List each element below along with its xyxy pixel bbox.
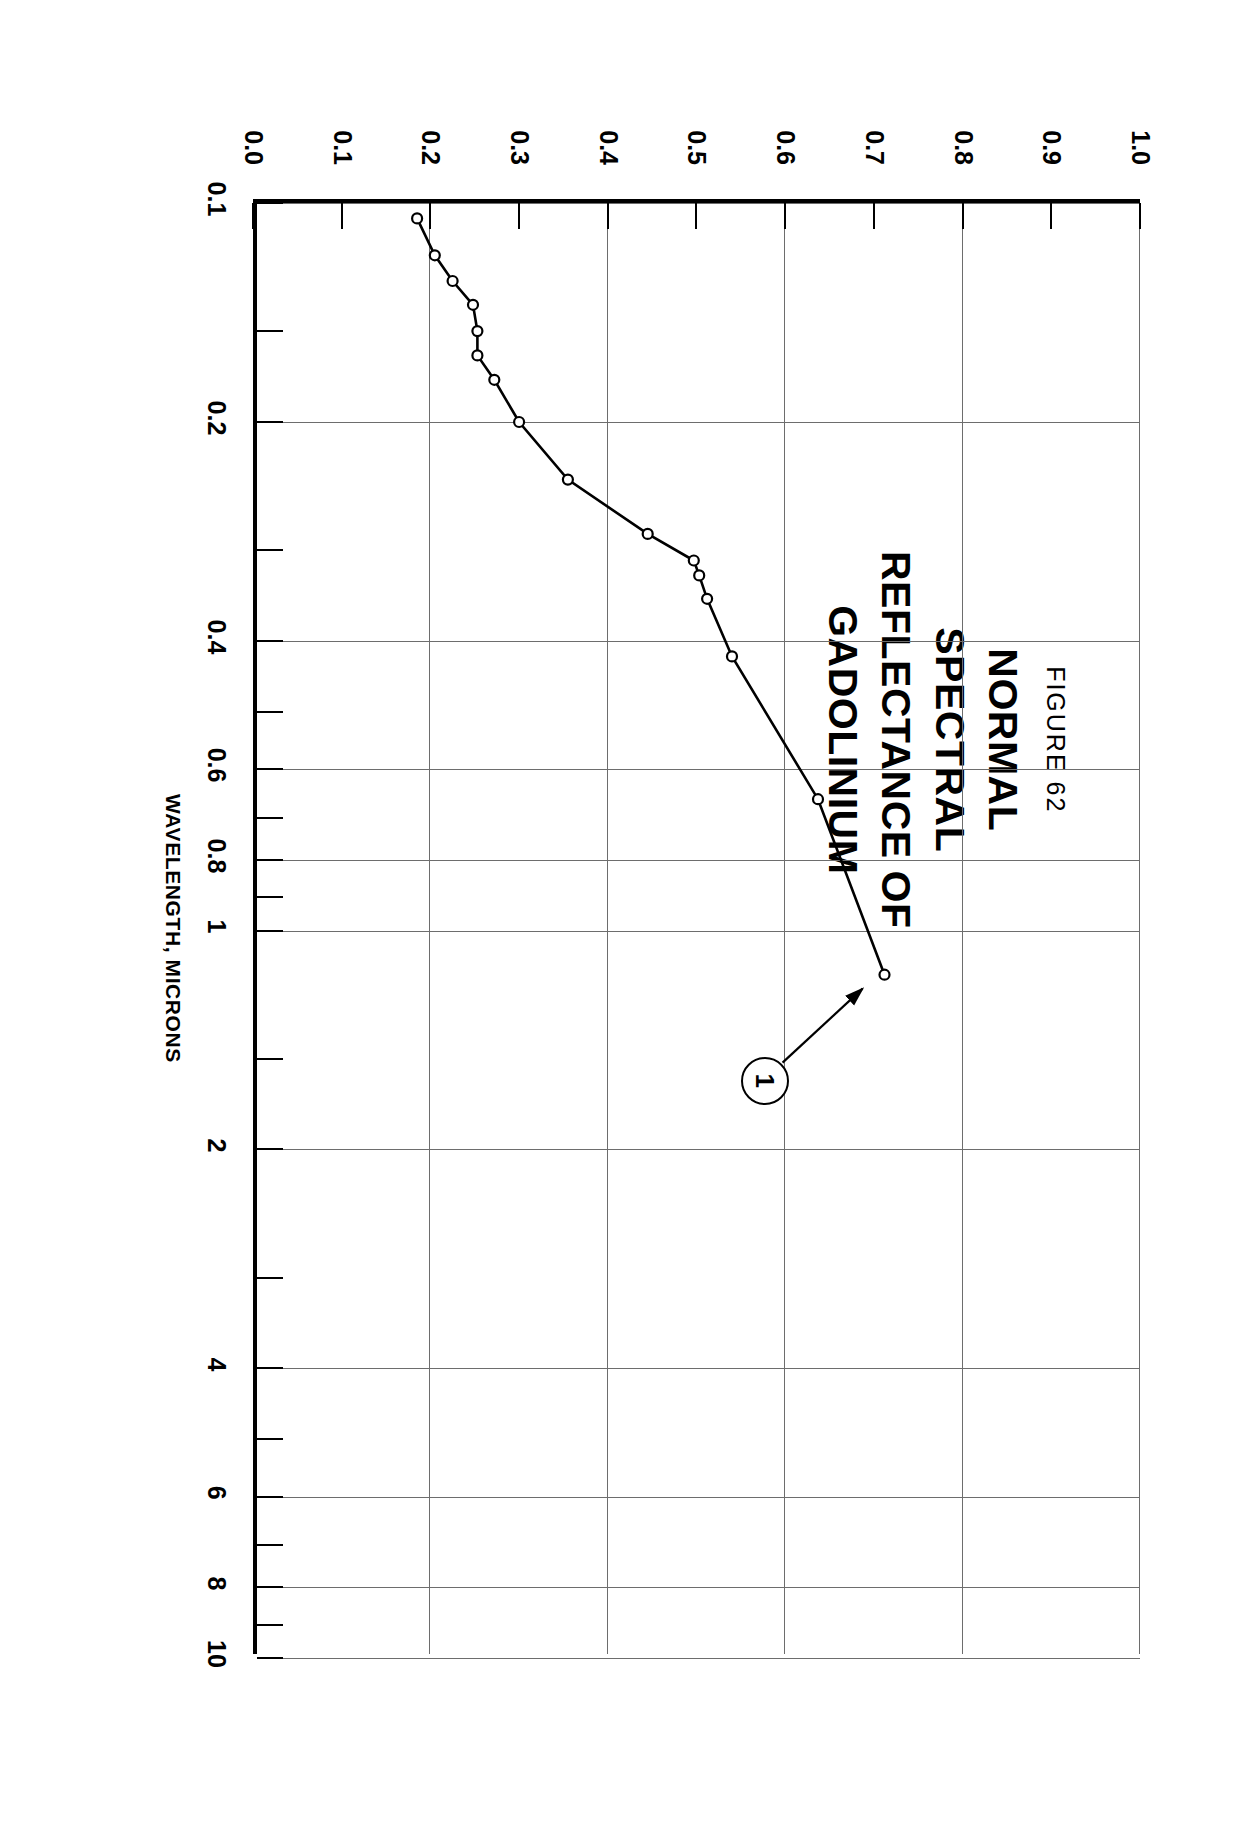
data-point-marker (489, 375, 499, 385)
data-point-marker (412, 213, 422, 223)
x-tick-label: 0.4 (202, 620, 231, 655)
x-tick-label: 4 (202, 1358, 231, 1372)
x-tick-label: 0.1 (202, 182, 231, 217)
y-tick-label: 0.5 (682, 81, 711, 165)
chart-stage: FIGURE 62 NORMAL SPECTRAL REFLECTANCE OF… (60, 81, 1180, 1741)
x-axis-title: WAVELENGTH, MICRONS (161, 203, 185, 1654)
y-tick-label: 0.9 (1037, 81, 1066, 165)
curve-label-badge: 1 (741, 1057, 789, 1105)
y-tick-label: 0.8 (948, 81, 977, 165)
annotation-leader-arrow (783, 989, 863, 1063)
series-line-curve-1 (417, 218, 884, 974)
data-point-marker (448, 276, 458, 286)
x-tick-label: 8 (202, 1577, 231, 1591)
y-tick-label: 0.1 (327, 81, 356, 165)
x-tick-label: 6 (202, 1486, 231, 1500)
figure-page: FIGURE 62 NORMAL SPECTRAL REFLECTANCE OF… (0, 0, 1240, 1822)
x-tick-label: 0.6 (202, 748, 231, 783)
y-tick-label: 0.0 (239, 81, 268, 165)
data-point-marker (430, 250, 440, 260)
x-tick-label: 0.8 (202, 839, 231, 874)
plot-area: WAVELENGTH, MICRONS (253, 199, 1140, 1654)
x-tick-label: 10 (202, 1640, 231, 1668)
y-tick-label: 0.4 (593, 81, 622, 165)
y-tick-label: 0.2 (416, 81, 445, 165)
data-point-marker (643, 529, 653, 539)
y-tick-label: 0.7 (859, 81, 888, 165)
x-tick-label: 2 (202, 1139, 231, 1153)
data-point-marker (880, 970, 890, 980)
x-tick-label: 1 (202, 920, 231, 934)
data-point-marker (563, 475, 573, 485)
data-point-marker (702, 594, 712, 604)
data-point-marker (689, 556, 699, 566)
gridline-vertical (257, 1658, 1140, 1659)
data-point-marker (813, 794, 823, 804)
data-point-marker (694, 570, 704, 580)
data-curve (253, 203, 1140, 1658)
y-tick-label: 0.6 (771, 81, 800, 165)
y-tick-label: 0.3 (505, 81, 534, 165)
x-tick-label: 0.2 (202, 401, 231, 436)
data-point-marker (468, 300, 478, 310)
data-point-marker (472, 350, 482, 360)
data-point-marker (514, 417, 524, 427)
data-point-marker (727, 651, 737, 661)
data-point-marker (472, 326, 482, 336)
y-tick-label: 1.0 (1126, 81, 1155, 165)
